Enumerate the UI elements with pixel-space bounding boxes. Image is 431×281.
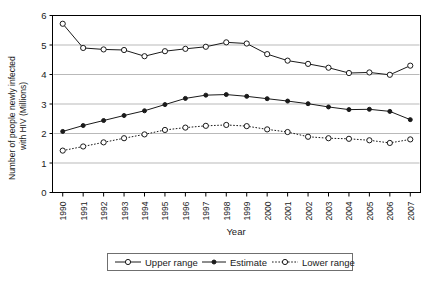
- x-tick-label: 1992: [99, 201, 109, 220]
- data-point: [265, 52, 270, 57]
- data-point: [60, 148, 65, 153]
- x-tick-label: 2007: [406, 201, 416, 220]
- legend-marker: [212, 260, 216, 264]
- data-point: [162, 49, 167, 54]
- x-tick-label: 1994: [140, 201, 150, 220]
- data-point: [121, 136, 126, 141]
- chart-legend: Upper rangeEstimateLower range: [108, 254, 355, 271]
- data-point: [60, 21, 65, 26]
- data-point: [408, 63, 413, 68]
- data-point: [102, 119, 106, 123]
- data-point: [121, 47, 126, 52]
- data-point: [203, 123, 208, 128]
- x-tick-labels: 1990199119921993199419951996199719981999…: [58, 201, 416, 220]
- data-point: [163, 103, 167, 107]
- data-point: [122, 114, 126, 118]
- data-point: [327, 105, 331, 109]
- series-lower-range: [60, 122, 413, 153]
- data-point: [245, 94, 249, 98]
- data-point: [306, 102, 310, 106]
- x-tick-label: 1995: [160, 201, 170, 220]
- gridlines: [54, 45, 420, 163]
- data-point: [101, 47, 106, 52]
- legend-label: Upper range: [145, 257, 198, 268]
- legend-label: Lower range: [302, 257, 355, 268]
- data-point: [142, 132, 147, 137]
- legend-marker: [125, 259, 130, 264]
- y-axis-title-line2: with HIV (Millions): [18, 82, 28, 151]
- data-point: [387, 140, 392, 145]
- data-point: [244, 124, 249, 129]
- data-point: [101, 140, 106, 145]
- x-tick-label: 2002: [304, 201, 314, 220]
- x-tick-label: 1993: [120, 201, 130, 220]
- data-point: [367, 70, 372, 75]
- y-axis-title: Number of people newly infected with HIV…: [7, 56, 28, 180]
- data-point: [224, 93, 228, 97]
- data-point: [286, 99, 290, 103]
- data-point: [162, 127, 167, 132]
- data-point: [265, 127, 270, 132]
- x-tick-label: 1997: [201, 201, 211, 220]
- data-point: [183, 96, 187, 100]
- x-tick-marks: [63, 193, 411, 197]
- series-line: [63, 125, 411, 151]
- y-tick-label: 6: [41, 10, 46, 21]
- x-tick-label: 2001: [283, 201, 293, 220]
- x-tick-label: 2003: [324, 201, 334, 220]
- series-upper-range: [60, 21, 413, 77]
- data-point: [244, 41, 249, 46]
- data-point: [224, 40, 229, 45]
- data-point: [265, 97, 269, 101]
- y-tick-label: 4: [41, 69, 46, 80]
- data-point: [346, 136, 351, 141]
- y-tick-label: 0: [41, 187, 46, 198]
- data-point: [224, 122, 229, 127]
- data-point: [204, 93, 208, 97]
- legend-items: Upper rangeEstimateLower range: [115, 257, 355, 268]
- x-tick-label: 1991: [79, 201, 89, 220]
- y-axis-title-line1: Number of people newly infected: [7, 56, 17, 180]
- y-tick-label: 1: [41, 158, 46, 169]
- data-point: [203, 44, 208, 49]
- x-tick-label: 1996: [181, 201, 191, 220]
- x-tick-label: 1990: [58, 201, 68, 220]
- data-point: [183, 125, 188, 130]
- data-point: [61, 129, 65, 133]
- data-point: [305, 61, 310, 66]
- x-axis-title: Year: [226, 226, 245, 237]
- data-point: [183, 46, 188, 51]
- y-tick-label: 5: [41, 40, 46, 51]
- data-point: [346, 70, 351, 75]
- x-tick-label: 2000: [263, 201, 273, 220]
- data-point: [285, 58, 290, 63]
- chart-canvas: Number of people newly infected with HIV…: [0, 0, 431, 281]
- series-estimate: [61, 93, 413, 134]
- data-point: [305, 134, 310, 139]
- legend-label: Estimate: [230, 257, 267, 268]
- data-point: [367, 107, 371, 111]
- x-tick-label: 1998: [222, 201, 232, 220]
- data-point: [326, 65, 331, 70]
- data-point: [347, 108, 351, 112]
- legend-marker: [282, 259, 287, 264]
- data-point: [142, 54, 147, 59]
- x-tick-label: 2006: [385, 201, 395, 220]
- x-tick-label: 1999: [242, 201, 252, 220]
- y-tick-label: 3: [41, 99, 46, 110]
- data-point: [326, 136, 331, 141]
- data-point: [388, 109, 392, 113]
- x-tick-label: 2004: [344, 201, 354, 220]
- data-point: [408, 137, 413, 142]
- data-point: [285, 129, 290, 134]
- data-point: [367, 138, 372, 143]
- y-tick-label: 2: [41, 128, 46, 139]
- data-point: [143, 109, 147, 113]
- x-tick-label: 2005: [365, 201, 375, 220]
- data-point: [81, 45, 86, 50]
- series-line: [63, 24, 411, 75]
- y-tick-labels: 0123456: [41, 10, 46, 198]
- data-point: [408, 118, 412, 122]
- data-point: [387, 72, 392, 77]
- hiv-infections-line-chart: Number of people newly infected with HIV…: [0, 0, 431, 281]
